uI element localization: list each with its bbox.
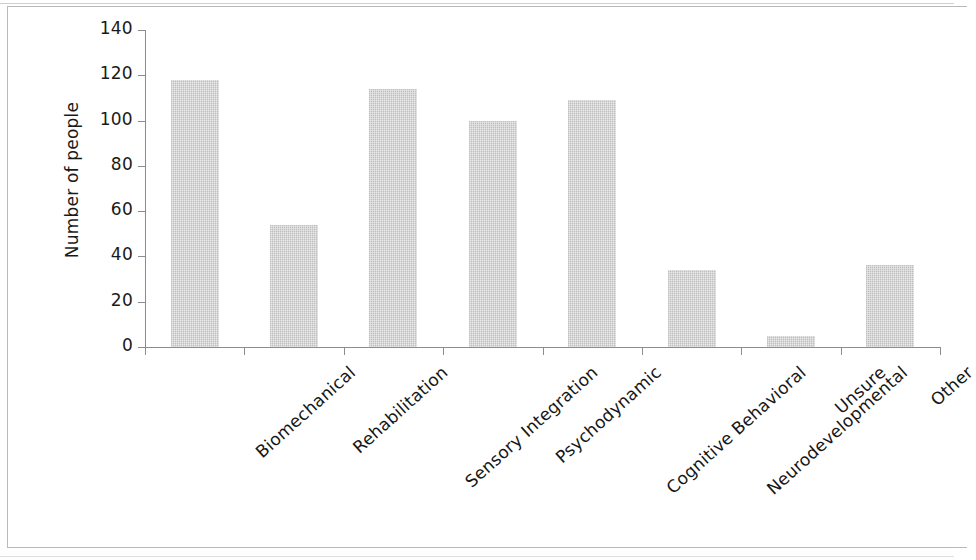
x-axis-tick: [443, 347, 444, 355]
bar: [767, 336, 815, 347]
y-axis-tick: [138, 347, 145, 348]
y-axis-title: Number of people: [62, 50, 82, 310]
x-axis-tick-label: Psychodynamic: [551, 362, 664, 467]
bar: [866, 265, 914, 347]
x-axis-tick: [940, 347, 941, 355]
y-axis-tick: [138, 256, 145, 257]
y-axis-line: [145, 30, 146, 348]
x-axis-tick: [244, 347, 245, 355]
x-axis-tick: [642, 347, 643, 355]
y-axis-tick-label: 80: [5, 154, 133, 174]
bar: [568, 100, 616, 347]
y-axis-tick-label: 20: [5, 290, 133, 310]
y-axis-tick-label: 60: [5, 199, 133, 219]
bar: [668, 270, 716, 347]
y-axis-tick-label: 0: [5, 335, 133, 355]
bar: [270, 225, 318, 347]
x-axis-tick: [543, 347, 544, 355]
bar: [369, 89, 417, 347]
x-axis-tick: [344, 347, 345, 355]
x-axis-tick: [841, 347, 842, 355]
y-axis-tick-label: 100: [5, 109, 133, 129]
y-axis-tick-label: 120: [5, 63, 133, 83]
bar: [469, 121, 517, 347]
x-axis-tick-label: Other: [927, 362, 976, 410]
x-axis-tick: [145, 347, 146, 355]
bar: [171, 80, 219, 347]
y-axis-tick-label: 140: [5, 18, 133, 38]
y-axis-tick-label: 40: [5, 244, 133, 264]
y-axis-tick: [138, 30, 145, 31]
x-axis-tick-label: Rehabilitation: [349, 362, 452, 457]
y-axis-tick: [138, 75, 145, 76]
y-axis-tick: [138, 121, 145, 122]
y-axis-tick: [138, 166, 145, 167]
y-axis-tick: [138, 302, 145, 303]
x-axis-tick: [741, 347, 742, 355]
x-axis-tick-label: Biomechanical: [251, 362, 359, 462]
y-axis-tick: [138, 211, 145, 212]
